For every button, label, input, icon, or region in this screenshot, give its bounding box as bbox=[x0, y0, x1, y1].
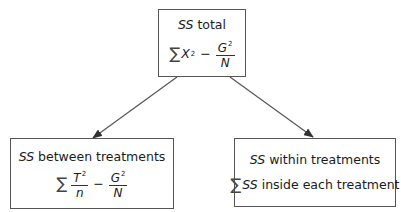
denominator: N bbox=[114, 186, 123, 199]
fraction-t: T2 n bbox=[71, 168, 88, 199]
exponent: 2 bbox=[82, 170, 86, 178]
title-text: total bbox=[193, 17, 226, 32]
exponent: 2 bbox=[121, 170, 125, 178]
node-ss-within: SS within treatments ∑SS inside each tre… bbox=[234, 138, 396, 207]
sigma-symbol: ∑ bbox=[231, 175, 242, 194]
formula: ∑ X2 − G2 N bbox=[169, 38, 234, 69]
node-title: SS total bbox=[178, 17, 226, 32]
formula: ∑ T2 n − G2 N bbox=[57, 168, 128, 199]
ss-label: SS bbox=[178, 17, 193, 32]
exponent: 2 bbox=[191, 50, 195, 58]
denominator: N bbox=[221, 56, 230, 69]
node-ss-total: SS total ∑ X2 − G2 N bbox=[158, 9, 246, 77]
numerator: G2 bbox=[109, 168, 128, 186]
arrow-total-to-between bbox=[93, 77, 177, 138]
node-title: SS between treatments bbox=[19, 149, 166, 164]
title-text: between treatments bbox=[34, 149, 165, 164]
denominator: n bbox=[76, 186, 84, 199]
title-text: within treatments bbox=[265, 152, 380, 167]
exponent: 2 bbox=[228, 40, 232, 48]
minus-sign: − bbox=[93, 176, 103, 191]
minus-sign: − bbox=[200, 46, 210, 61]
ss-label: SS bbox=[250, 152, 265, 167]
ss-label: SS bbox=[19, 149, 34, 164]
sigma-symbol: ∑ bbox=[169, 44, 180, 63]
var-g: G bbox=[111, 171, 120, 185]
var-t: T bbox=[73, 171, 80, 185]
numerator: T2 bbox=[71, 168, 88, 186]
formula: ∑SS inside each treatment bbox=[231, 175, 400, 194]
formula-text: inside each treatment bbox=[258, 177, 400, 192]
sigma-symbol: ∑ bbox=[57, 174, 68, 193]
var-x: X bbox=[181, 46, 190, 61]
arrow-total-to-within bbox=[230, 77, 313, 137]
node-ss-between: SS between treatments ∑ T2 n − G2 N bbox=[10, 138, 174, 209]
var-g: G bbox=[218, 41, 227, 55]
numerator: G2 bbox=[216, 38, 235, 56]
fraction-g: G2 N bbox=[109, 168, 128, 199]
fraction: G2 N bbox=[216, 38, 235, 69]
ss-label: SS bbox=[242, 177, 257, 192]
node-title: SS within treatments bbox=[250, 152, 381, 167]
